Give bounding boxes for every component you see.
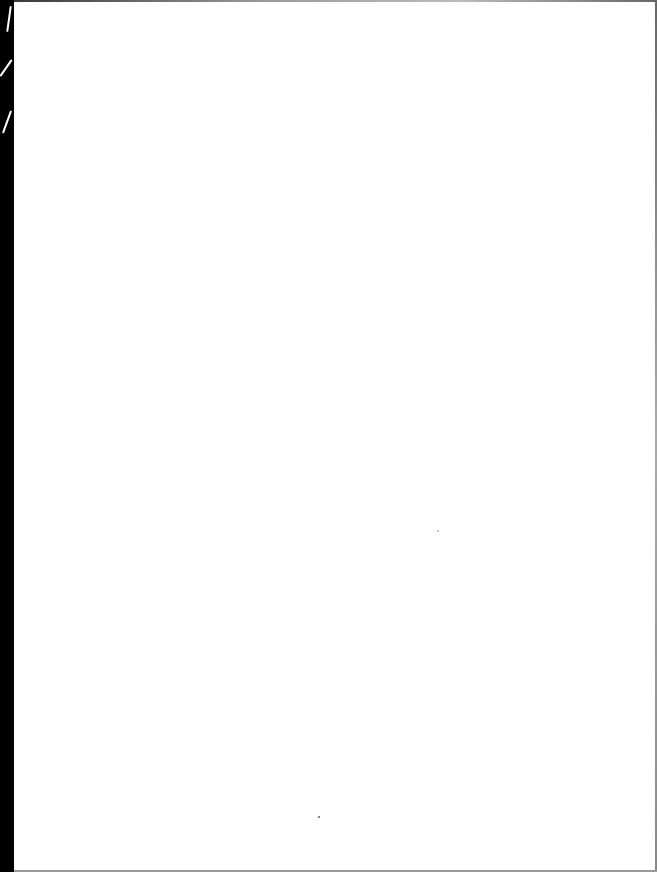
top-scan-edge — [0, 0, 657, 2]
dust-speck — [318, 816, 320, 818]
dust-speck — [437, 530, 439, 532]
scanned-page — [0, 0, 657, 872]
